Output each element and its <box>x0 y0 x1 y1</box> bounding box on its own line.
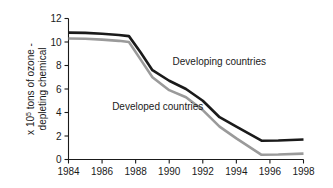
series-lines <box>69 33 304 155</box>
x-tick-label: 1988 <box>125 166 148 177</box>
x-tick-label: 1994 <box>225 166 248 177</box>
x-tick-label: 1996 <box>259 166 282 177</box>
x-tick-label: 1986 <box>91 166 114 177</box>
y-axis-title: x 105 tons of ozone -depleting chemical <box>25 43 48 135</box>
y-tick-label: 10 <box>50 37 62 48</box>
y-tick-label: 12 <box>50 13 62 24</box>
y-tick-label: 2 <box>56 131 62 142</box>
y-tick-label: 0 <box>56 154 62 165</box>
y-axis-ticks: 024681012 <box>50 13 68 165</box>
y-axis-title-line-1: x 105 tons of ozone - <box>25 43 36 135</box>
y-axis-title-suffix: tons of ozone - <box>25 43 36 112</box>
y-tick-label: 6 <box>56 84 62 95</box>
x-axis-ticks: 19841986198819901992199419961998 <box>57 160 315 177</box>
series-line-1 <box>69 33 304 141</box>
x-tick-label: 1992 <box>192 166 215 177</box>
series-annotations: Developing countriesDeveloped countries <box>112 56 266 112</box>
y-axis-title-prefix: x 10 <box>25 116 36 135</box>
series-annotation-1: Developing countries <box>173 56 266 67</box>
line-chart: x 105 tons of ozone -depleting chemical … <box>0 0 333 188</box>
series-annotation-2: Developed countries <box>112 101 203 112</box>
y-axis-title-rotated: x 105 tons of ozone -depleting chemical <box>25 43 48 135</box>
y-axis-title-line-2: depleting chemical <box>37 48 48 131</box>
x-tick-label: 1998 <box>292 166 315 177</box>
chart-container: x 105 tons of ozone -depleting chemical … <box>0 0 333 188</box>
y-tick-label: 8 <box>56 60 62 71</box>
y-tick-label: 4 <box>56 107 62 118</box>
x-tick-label: 1984 <box>57 166 80 177</box>
x-tick-label: 1990 <box>158 166 181 177</box>
